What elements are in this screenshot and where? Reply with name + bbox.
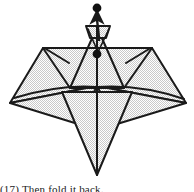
figure-caption: (17) Then fold it back.	[0, 183, 194, 192]
target-point-dot	[93, 4, 102, 13]
origami-figure: (17) Then fold it back.	[0, 0, 194, 192]
pivot-point-dot	[93, 50, 102, 59]
origami-diagram-svg	[0, 0, 194, 192]
